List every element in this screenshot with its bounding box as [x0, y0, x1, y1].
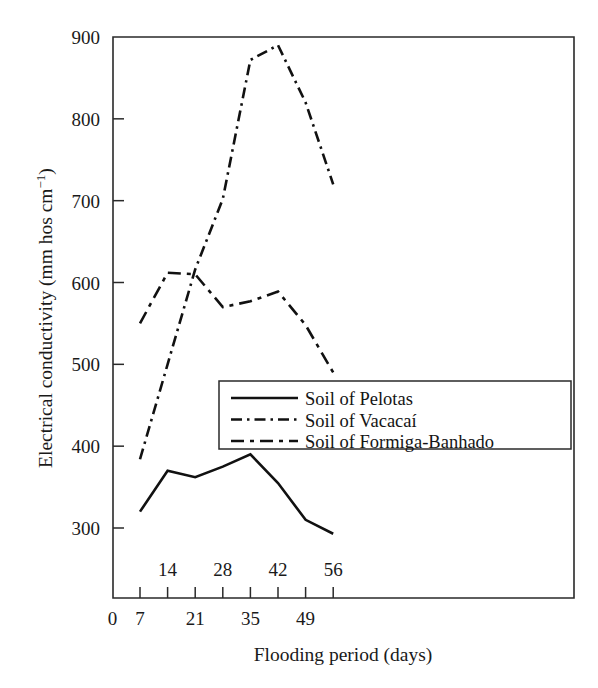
x-axis-title: Flooding period (days): [254, 644, 433, 666]
y-axis-title: Electrical conductivity (mm hos cm−1): [33, 168, 57, 468]
x-axis-ticks: 0721354914284256: [108, 559, 343, 629]
legend-label: Soil of Pelotas: [305, 389, 413, 409]
chart-figure: 300400500600700800900 0721354914284256 E…: [0, 0, 598, 688]
y-tick-label: 600: [72, 273, 101, 294]
y-tick-label: 400: [72, 436, 101, 457]
legend-label: Soil of Vacacaí: [305, 411, 417, 431]
y-tick-label: 800: [72, 109, 101, 130]
x-tick-label-below: 7: [135, 608, 145, 629]
y-tick-label: 900: [72, 27, 101, 48]
y-axis-title-tail: ): [35, 168, 57, 175]
x-tick-label-above: 28: [213, 559, 232, 580]
x-tick-label-below: 0: [108, 608, 118, 629]
y-tick-label: 700: [72, 191, 101, 212]
x-tick-label-above: 14: [158, 559, 178, 580]
series-line-solid: [140, 454, 333, 533]
y-axis-ticks: 300400500600700800900: [72, 27, 125, 539]
line-chart: 300400500600700800900 0721354914284256 E…: [0, 0, 598, 688]
svg-text:Electrical conductivity (mm ho: Electrical conductivity (mm hos cm−1): [33, 168, 57, 468]
x-tick-label-above: 56: [324, 559, 343, 580]
y-axis-title-text: Electrical conductivity (mm hos cm: [35, 188, 57, 467]
data-series-group: [140, 45, 333, 534]
series-line-dashed: [140, 273, 333, 373]
y-tick-label: 300: [72, 518, 101, 539]
x-tick-label-above: 42: [269, 559, 288, 580]
x-tick-label-below: 49: [296, 608, 315, 629]
x-tick-label-below: 35: [241, 608, 260, 629]
legend-label: Soil of Formiga-Banhado: [305, 432, 494, 452]
y-tick-label: 500: [72, 354, 101, 375]
chart-legend: Soil of PelotasSoil of VacacaíSoil of Fo…: [219, 381, 571, 452]
x-tick-label-below: 21: [186, 608, 205, 629]
y-axis-title-exponent: −1: [33, 175, 48, 189]
